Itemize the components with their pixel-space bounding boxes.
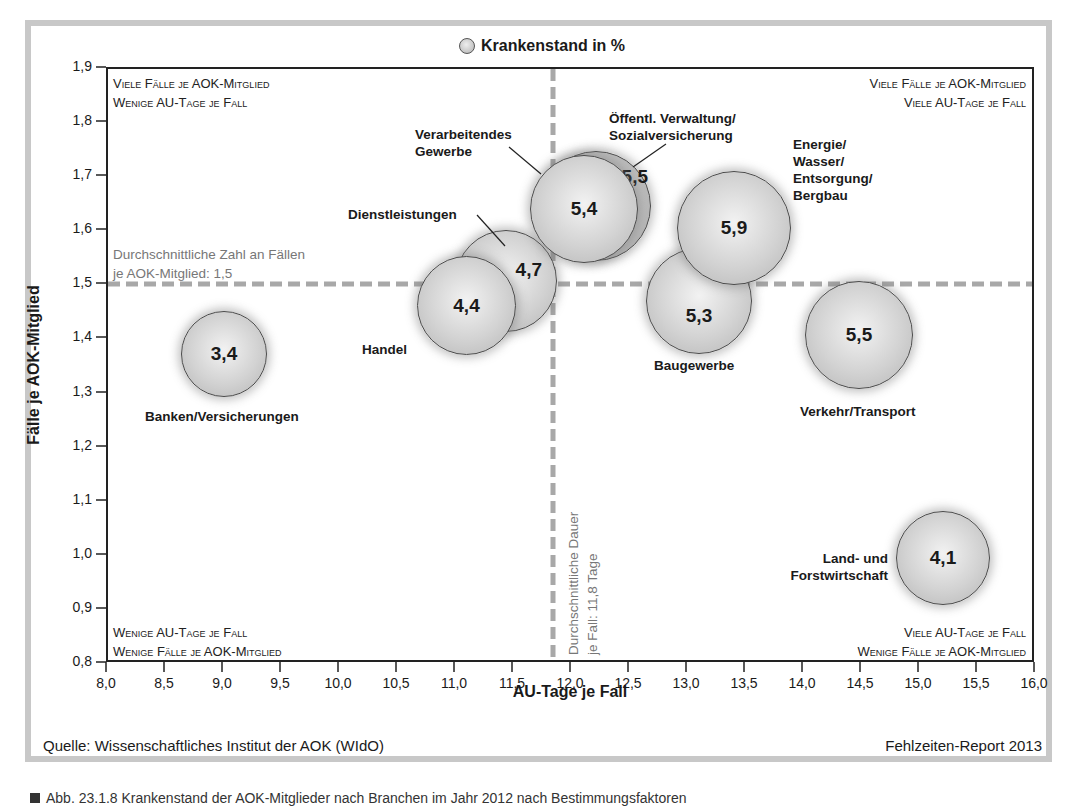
label-line: Wasser/ [793,153,873,170]
caption-marker-icon [30,793,40,803]
y-tick-label: 1,4 [52,328,92,344]
quadrant-bottom-left: Wenige AU-Tage je Fall Wenige Fälle je A… [113,623,281,661]
report-note: Fehlzeiten-Report 2013 [885,737,1042,754]
figure-caption: Abb. 23.1.8 Krankenstand der AOK-Mitglie… [30,790,686,806]
quadrant-bottom-right: Viele AU-Tage je Fall Wenige Fälle je AO… [858,623,1026,661]
bubble-value: 4,4 [453,295,479,317]
x-ticks [106,662,1034,672]
bubble-value: 3,4 [211,343,237,365]
y-ticks [96,67,106,662]
label-line: Land- und [772,550,888,567]
bubble-value: 5,3 [686,305,712,327]
y-tick-label: 1,1 [52,491,92,507]
y-tick-label: 1,6 [52,220,92,236]
bubble-land-forstwirtschaft: 4,1 [896,511,990,605]
quadrant-text: Wenige AU-Tage je Fall [113,623,281,642]
x-tick-label: 15,5 [951,675,1001,691]
label-land-forstwirtschaft: Land- und Forstwirtschaft [772,550,888,584]
y-tick-label: 1,8 [52,112,92,128]
x-tick-label: 14,0 [777,675,827,691]
avg-duration-label: Durchschnittliche Dauer je Fall: 11,8 Ta… [564,512,602,655]
label-energie: Energie/ Wasser/ Entsorgung/ Bergbau [793,136,873,204]
quadrant-text: Viele AU-Tage je Fall [858,623,1026,642]
y-tick-label: 0,8 [52,653,92,669]
label-dienstleistungen: Dienstleistungen [348,206,457,223]
bubble-value: 4,1 [930,547,956,569]
label-line: Forstwirtschaft [772,567,888,584]
label-line: Energie/ [793,136,873,153]
label-baugewerbe: Baugewerbe [654,357,734,374]
quadrant-text: Wenige AU-Tage je Fall [113,93,269,112]
x-tick-label: 10,0 [313,675,363,691]
quadrant-text: Wenige Fälle je AOK-Mitglied [113,642,281,661]
avg-text: je AOK-Mitglied: 1,5 [113,264,305,283]
x-tick-label: 11,0 [429,675,479,691]
label-line: Bergbau [793,187,873,204]
bubble-verkehr: 5,5 [805,281,913,389]
x-tick-label: 8,5 [139,675,189,691]
bubble-handel: 4,4 [417,256,516,355]
bubble-energie: 5,9 [677,171,791,285]
label-line: Gewerbe [415,143,512,160]
quadrant-text: Wenige Fälle je AOK-Mitglied [858,642,1026,661]
bubble-verarbeitendes-gewerbe: 5,4 [530,155,638,263]
x-tick-label: 8,0 [81,675,131,691]
x-tick-label: 13,0 [661,675,711,691]
avg-text: Durchschnittliche Zahl an Fällen [113,245,305,264]
y-tick-label: 1,7 [52,166,92,182]
quadrant-text: Viele Fälle je AOK-Mitglied [870,74,1026,93]
bubble-value: 4,7 [516,259,542,281]
caption-text: Abb. 23.1.8 Krankenstand der AOK-Mitglie… [46,790,686,806]
y-tick-label: 0,9 [52,599,92,615]
x-tick-label: 9,0 [197,675,247,691]
label-verkehr: Verkehr/Transport [800,403,916,420]
source-note: Quelle: Wissenschaftliches Institut der … [43,737,384,754]
bubble-banken: 3,4 [181,311,267,397]
x-tick-label: 14,5 [835,675,885,691]
bubble-value: 5,4 [571,198,597,220]
x-tick-label: 16,0 [1009,675,1059,691]
label-verarbeitendes-gewerbe: Verarbeitendes Gewerbe [415,126,512,160]
quadrant-top-right: Viele Fälle je AOK-Mitglied Viele AU-Tag… [870,74,1026,112]
bubble-value: 5,5 [846,324,872,346]
label-oeffentliche-verwaltung: Öffentl. Verwaltung/ Sozialversicherung [609,110,736,144]
x-axis-label: AU-Tage je Fall [513,683,627,701]
quadrant-text: Viele Fälle je AOK-Mitglied [113,74,269,93]
y-axis-label: Fälle je AOK-Mitglied [25,285,43,444]
label-banken: Banken/Versicherungen [145,408,299,425]
quadrant-top-left: Viele Fälle je AOK-Mitglied Wenige AU-Ta… [113,74,269,112]
label-line: Verarbeitendes [415,126,512,143]
label-line: Sozialversicherung [609,127,736,144]
x-tick-label: 9,5 [255,675,305,691]
x-tick-label: 15,0 [893,675,943,691]
y-tick-label: 1,0 [52,545,92,561]
y-tick-label: 1,9 [52,58,92,74]
label-line: Entsorgung/ [793,170,873,187]
avg-text: je Fall: 11,8 Tage [583,512,602,655]
avg-text: Durchschnittliche Dauer [564,512,583,655]
y-tick-label: 1,5 [52,274,92,290]
label-line: Öffentl. Verwaltung/ [609,110,736,127]
x-tick-label: 10,5 [371,675,421,691]
quadrant-text: Viele AU-Tage je Fall [870,93,1026,112]
x-tick-label: 13,5 [719,675,769,691]
avg-cases-label: Durchschnittliche Zahl an Fällen je AOK-… [113,245,305,283]
y-tick-label: 1,3 [52,383,92,399]
label-handel: Handel [362,341,407,358]
y-tick-label: 1,2 [52,437,92,453]
bubble-value: 5,9 [721,217,747,239]
